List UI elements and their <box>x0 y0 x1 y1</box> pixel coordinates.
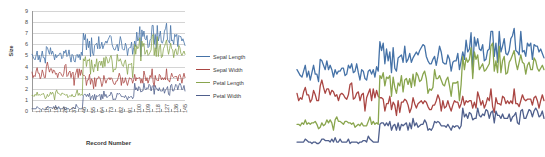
x-tick-mark <box>78 109 79 112</box>
legend-color-swatch-icon <box>196 56 210 58</box>
x-tick-mark <box>161 109 162 112</box>
x-tick-label: 1 <box>35 110 41 113</box>
series-lines-bare <box>297 18 544 145</box>
x-tick-mark <box>106 109 107 112</box>
screenshot-root: Size 0123456789 110192837465564738291100… <box>0 0 545 157</box>
series-line <box>32 62 185 89</box>
x-tick-label: 145 <box>182 104 188 113</box>
x-tick-mark <box>134 109 135 112</box>
x-tick-mark <box>50 109 51 112</box>
x-tick-label: 55 <box>90 107 96 113</box>
x-tick-mark <box>152 109 153 112</box>
y-axis-title: Size <box>8 42 14 60</box>
chart-panel-bare <box>273 0 545 157</box>
legend-item-label: Sepal Width <box>213 67 243 73</box>
x-tick-label: 91 <box>127 107 133 113</box>
x-tick-mark <box>97 109 98 112</box>
x-axis-title: Record Number <box>32 140 185 146</box>
legend-item-label: Petal Length <box>213 80 244 86</box>
x-tick-label: 118 <box>155 104 161 113</box>
x-tick-mark <box>32 109 33 112</box>
y-tick-label: 9 <box>17 8 28 14</box>
x-tick-label: 28 <box>62 107 68 113</box>
plot-area <box>32 11 185 111</box>
x-tick-label: 100 <box>136 104 142 113</box>
y-tick-label: 0 <box>17 108 28 114</box>
x-tick-label: 127 <box>164 104 170 113</box>
x-tick-label: 73 <box>108 107 114 113</box>
legend-color-swatch-icon <box>196 95 210 97</box>
x-tick-label: 82 <box>118 107 124 113</box>
x-tick-mark <box>41 109 42 112</box>
x-tick-mark <box>124 109 125 112</box>
series-line <box>297 80 544 115</box>
x-tick-mark <box>115 109 116 112</box>
chart-panel-with-axes: Size 0123456789 110192837465564738291100… <box>0 0 273 157</box>
y-tick-label: 7 <box>17 30 28 36</box>
x-tick-label: 64 <box>99 107 105 113</box>
x-tick-mark <box>171 109 172 112</box>
x-tick-mark <box>87 109 88 112</box>
x-tick-label: 19 <box>53 107 59 113</box>
legend-item-label: Sepal Length <box>213 54 245 60</box>
x-tick-mark <box>60 109 61 112</box>
series-line <box>32 34 185 100</box>
x-tick-mark <box>69 109 70 112</box>
series-line <box>297 43 544 130</box>
legend-item-label: Petal Width <box>213 93 241 99</box>
y-tick-label: 3 <box>17 75 28 81</box>
y-tick-label: 5 <box>17 52 28 58</box>
x-tick-mark <box>143 109 144 112</box>
x-tick-label: 109 <box>145 104 151 113</box>
bare-plot-area <box>297 18 544 145</box>
x-tick-label: 10 <box>44 107 50 113</box>
y-tick-label: 6 <box>17 41 28 47</box>
y-tick-label: 8 <box>17 19 28 25</box>
x-axis-tick-labels: 110192837465564738291100109118127136145 <box>32 112 185 138</box>
chart-legend: Sepal LengthSepal WidthPetal LengthPetal… <box>196 50 268 102</box>
y-tick-label: 1 <box>17 97 28 103</box>
x-tick-label: 37 <box>71 107 77 113</box>
y-tick-label: 2 <box>17 86 28 92</box>
legend-item[interactable]: Sepal Width <box>196 63 268 76</box>
legend-item[interactable]: Petal Width <box>196 89 268 102</box>
legend-item[interactable]: Petal Length <box>196 76 268 89</box>
x-tick-label: 136 <box>173 104 179 113</box>
x-tick-mark <box>180 109 181 112</box>
legend-item[interactable]: Sepal Length <box>196 50 268 63</box>
legend-color-swatch-icon <box>196 82 210 84</box>
y-tick-label: 4 <box>17 64 28 70</box>
series-lines <box>32 11 185 111</box>
x-tick-label: 46 <box>81 107 87 113</box>
legend-color-swatch-icon <box>196 69 210 71</box>
